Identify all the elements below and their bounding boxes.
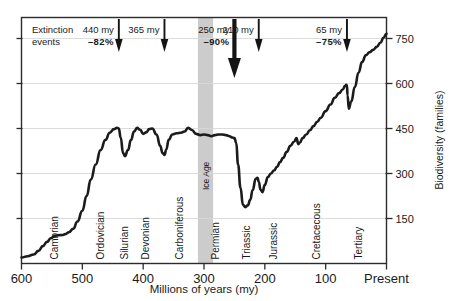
- period-label-devonian: Devonian: [140, 217, 151, 259]
- y-axis-title: Biodiversity (families): [433, 90, 445, 189]
- period-label-carboniferous: Carboniferous: [174, 197, 185, 260]
- biodiversity-chart-figure: 440 my–82%365 my250 my–90%210 my65 my–75…: [0, 0, 456, 301]
- chart-svg: 440 my–82%365 my250 my–90%210 my65 my–75…: [0, 0, 456, 301]
- x-tick-label-500: 500: [71, 271, 93, 286]
- period-label-silurian: Silurian: [119, 226, 130, 259]
- y-tick-label-450: 450: [396, 123, 414, 135]
- period-label-triassic: Triassic: [241, 225, 252, 259]
- band-label-ice-age: Ice Age: [201, 161, 211, 190]
- y-tick-label-600: 600: [396, 78, 414, 90]
- period-label-ordovician: Ordovician: [95, 212, 106, 260]
- arrow-shaft-ext-440: [118, 19, 120, 39]
- extinction-caption-line1: Extinction: [32, 24, 73, 35]
- extinction-caption-line2: events: [32, 36, 60, 47]
- period-label-cretacecous: Cretacecous: [311, 203, 322, 259]
- y-tick-label-750: 750: [396, 33, 414, 45]
- arrow-shaft-ext-365: [164, 19, 166, 39]
- period-label-tertiary: Tertiary: [353, 227, 364, 260]
- arrow-shaft-ext-210: [258, 19, 260, 39]
- extinction-age-ext-65: 65 my: [316, 24, 342, 35]
- extinction-percent-ext-250: –90%: [204, 36, 230, 47]
- y-tick-label-150: 150: [396, 213, 414, 225]
- extinction-age-ext-210: 210 my: [223, 24, 254, 35]
- period-label-cambrian: Cambrian: [49, 216, 60, 259]
- period-label-permian: Permian: [210, 222, 221, 259]
- period-label-jurassic: Jurassic: [268, 223, 279, 260]
- extinction-percent-ext-65: –75%: [316, 36, 342, 47]
- extinction-age-ext-365: 365 my: [128, 24, 159, 35]
- x-axis-title: Millions of years (my): [150, 283, 259, 295]
- extinction-age-ext-440: 440 my: [83, 24, 114, 35]
- y-tick-label-300: 300: [396, 168, 414, 180]
- ice-age-label-layer: Ice Age: [201, 161, 211, 190]
- extinction-percent-ext-440: –82%: [88, 36, 114, 47]
- x-tick-label-600: 600: [11, 271, 33, 286]
- x-tick-label-100: 100: [315, 271, 337, 286]
- arrow-shaft-ext-65: [346, 19, 348, 39]
- x-tick-label-present: Present: [364, 271, 409, 286]
